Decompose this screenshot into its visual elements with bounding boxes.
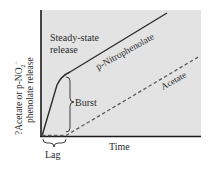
lag-brace bbox=[43, 139, 66, 147]
burst-kinetics-chart: Steady-state release p-Nitrophenolate Ac… bbox=[0, 0, 211, 170]
y-axis-label: ?Acetate or p-NO2− phenolate release bbox=[13, 57, 35, 135]
lag-label: Lag bbox=[45, 149, 61, 160]
x-axis-label: Time bbox=[109, 141, 130, 152]
steady-state-label-1: Steady-state bbox=[50, 32, 99, 43]
y-axis-label-superscript: − bbox=[13, 60, 19, 64]
steady-state-label-2: release bbox=[50, 44, 78, 55]
y-axis-label-line2: phenolate release bbox=[25, 57, 35, 123]
burst-label: Burst bbox=[75, 97, 97, 108]
y-axis-label-line1: ?Acetate or p-NO bbox=[14, 67, 24, 135]
